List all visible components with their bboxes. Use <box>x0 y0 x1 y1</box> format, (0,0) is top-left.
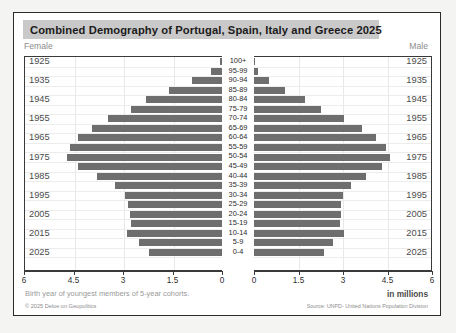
birth-year-label-left: 2005 <box>29 210 50 220</box>
axis-tick <box>24 271 25 275</box>
female-bar <box>149 249 222 256</box>
birth-year-label-right: 2005 <box>406 210 427 220</box>
age-group-label: 20-24 <box>222 209 254 219</box>
male-bar <box>254 211 341 218</box>
male-bar <box>254 230 344 237</box>
male-bar <box>254 239 333 246</box>
male-bar <box>254 249 324 256</box>
bar-row <box>254 152 431 162</box>
bar-row <box>25 191 222 201</box>
bar-row <box>254 229 431 239</box>
male-tick-label: 0 <box>252 276 257 285</box>
bar-row <box>254 210 431 220</box>
female-caption: Female <box>24 41 53 51</box>
female-bar <box>108 115 222 122</box>
male-bar <box>254 192 343 199</box>
female-bar <box>131 220 222 227</box>
female-bar <box>115 182 222 189</box>
birth-year-label-right: 1985 <box>406 172 427 182</box>
page-title: Combined Demography of Portugal, Spain, … <box>23 24 382 36</box>
male-tick-label: 6 <box>430 276 435 285</box>
birth-year-label-right: 1975 <box>406 153 427 163</box>
male-bar <box>254 173 366 180</box>
male-bar <box>254 125 362 132</box>
male-bar <box>254 163 382 170</box>
male-caption: Male <box>409 41 428 51</box>
birth-year-label-left: 1975 <box>29 153 50 163</box>
male-tick-label: 3 <box>341 276 346 285</box>
age-group-label: 100+ <box>222 56 254 66</box>
birth-year-label-right: 1945 <box>406 95 427 105</box>
bar-row <box>25 200 222 210</box>
footnote: Birth year of youngest members of 5-year… <box>25 289 189 298</box>
row-gridline <box>254 257 431 258</box>
birth-year-label-left: 1945 <box>29 95 50 105</box>
bar-row <box>25 124 222 134</box>
bar-row <box>25 210 222 220</box>
male-bar <box>254 115 344 122</box>
axis-tick <box>388 271 389 275</box>
birth-year-label-left: 2025 <box>29 248 50 258</box>
bar-row <box>25 238 222 248</box>
male-bar <box>254 96 305 103</box>
birth-year-label-left: 1985 <box>29 172 50 182</box>
age-group-label: 85-89 <box>222 85 254 95</box>
age-group-label: 55-59 <box>222 142 254 152</box>
row-gridline <box>25 257 222 258</box>
bar-row <box>25 229 222 239</box>
bar-row <box>254 95 431 105</box>
bar-row <box>25 105 222 115</box>
age-group-label: 35-39 <box>222 180 254 190</box>
bar-row <box>25 181 222 191</box>
birth-year-label-right: 2025 <box>406 248 427 258</box>
female-bar <box>97 173 222 180</box>
bar-row <box>25 152 222 162</box>
female-tick-label: 0 <box>220 276 225 285</box>
axis-tick <box>173 271 174 275</box>
age-group-label: 10-14 <box>222 228 254 238</box>
bar-row <box>25 86 222 96</box>
bar-row <box>254 133 431 143</box>
age-group-label: 65-69 <box>222 123 254 133</box>
female-bar <box>211 68 222 75</box>
bar-row <box>254 143 431 153</box>
age-group-label: 5-9 <box>222 237 254 247</box>
bar-row <box>25 95 222 105</box>
bar-row <box>254 219 431 229</box>
birth-year-label-right: 1925 <box>406 57 427 67</box>
age-group-label: 90-94 <box>222 75 254 85</box>
axis-tick <box>254 271 255 275</box>
bar-row <box>254 76 431 86</box>
birth-year-label-left: 2015 <box>29 229 50 239</box>
birth-year-label-left: 1995 <box>29 191 50 201</box>
female-bar <box>125 192 222 199</box>
male-bar <box>254 144 386 151</box>
female-bar <box>78 134 222 141</box>
female-bar <box>78 163 222 170</box>
axis-tick <box>299 271 300 275</box>
bar-row <box>25 76 222 86</box>
age-group-label: 75-79 <box>222 104 254 114</box>
age-group-label: 0-4 <box>222 247 254 257</box>
age-group-label: 95-99 <box>222 66 254 76</box>
bar-row <box>254 124 431 134</box>
male-tick-label: 4.5 <box>382 276 393 285</box>
female-bar <box>127 230 222 237</box>
age-group-label: 15-19 <box>222 218 254 228</box>
bar-row <box>254 162 431 172</box>
source-text: Source: UNPD- United Nations Population … <box>307 303 428 309</box>
female-bar <box>130 211 222 218</box>
female-bars-panel: 1925193519451955196519751985199520052015… <box>24 56 222 271</box>
bar-row <box>254 67 431 77</box>
female-bar <box>70 144 222 151</box>
female-tick-label: 4.5 <box>68 276 79 285</box>
male-bar <box>254 58 255 65</box>
male-bar <box>254 134 376 141</box>
age-group-label: 30-34 <box>222 190 254 200</box>
birth-year-label-left: 1935 <box>29 76 50 86</box>
male-bar <box>254 68 258 75</box>
axis-tick <box>343 271 344 275</box>
bar-row <box>25 172 222 182</box>
female-bar <box>169 87 222 94</box>
birth-year-label-left: 1965 <box>29 133 50 143</box>
